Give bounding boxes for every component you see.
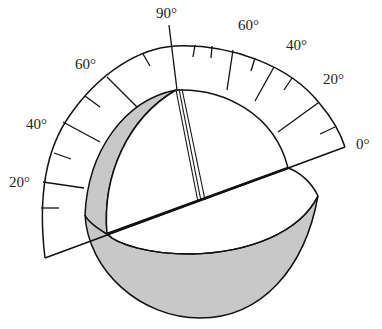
hemisphere-diagram [0,0,382,329]
scale-label-20-right: 20° [323,72,344,87]
scale-label-60-left: 60° [75,57,96,72]
scale-label-40-right: 40° [286,38,307,53]
scale-label-20-left: 20° [9,175,30,190]
scale-label-60-right: 60° [238,18,259,33]
scale-label-0: 0° [356,137,370,152]
scale-label-90: 90° [156,6,177,21]
axis-90-line [169,25,177,90]
scale-label-40-left: 40° [26,117,47,132]
rim-back [288,168,318,196]
